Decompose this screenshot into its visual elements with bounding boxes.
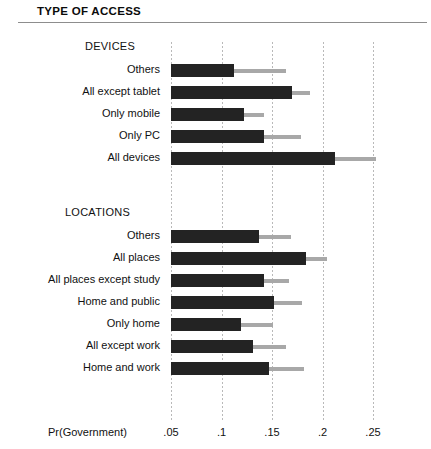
- value-bar: [171, 274, 264, 287]
- bar-row-label: All except work: [86, 339, 160, 351]
- x-tick-label: .05: [163, 426, 178, 438]
- value-bar: [171, 230, 259, 243]
- value-bar: [171, 64, 234, 77]
- value-bar: [171, 108, 244, 121]
- bar-row: All places except study: [0, 270, 431, 292]
- value-bar: [171, 152, 335, 165]
- bar-row-label: Others: [127, 63, 160, 75]
- bar-row: Others: [0, 226, 431, 248]
- value-bar: [171, 130, 264, 143]
- value-bar: [171, 340, 253, 353]
- x-tick-label: .1: [217, 426, 226, 438]
- bar-row-label: Only mobile: [102, 107, 160, 119]
- bar-row-label: All places: [113, 251, 160, 263]
- x-axis-title: Pr(Government): [48, 426, 127, 438]
- bar-row-label: All devices: [107, 151, 160, 163]
- x-tick-label: .25: [365, 426, 380, 438]
- bar-row: Only home: [0, 314, 431, 336]
- bar-row-label: All places except study: [48, 273, 160, 285]
- plot-area: DEVICES LOCATIONS OthersAll except table…: [0, 26, 431, 449]
- value-bar: [171, 86, 292, 99]
- bar-row: Only mobile: [0, 104, 431, 126]
- section-heading-devices: DEVICES: [85, 40, 135, 52]
- bar-row: Others: [0, 60, 431, 82]
- bar-row: All places: [0, 248, 431, 270]
- x-tick-label: .15: [264, 426, 279, 438]
- section-heading-locations: LOCATIONS: [65, 206, 130, 218]
- title-divider: [18, 22, 427, 23]
- bar-row-label: Home and work: [83, 361, 160, 373]
- bar-row-label: Home and public: [77, 295, 160, 307]
- value-bar: [171, 296, 274, 309]
- bar-row: Home and public: [0, 292, 431, 314]
- bar-row-label: All except tablet: [82, 85, 160, 97]
- bar-row-label: Only home: [107, 317, 160, 329]
- chart-root: TYPE OF ACCESS DEVICES LOCATIONS OthersA…: [0, 0, 431, 449]
- value-bar: [171, 362, 269, 375]
- bar-row: All devices: [0, 148, 431, 170]
- bar-row: All except work: [0, 336, 431, 358]
- value-bar: [171, 318, 241, 331]
- bar-row-label: Others: [127, 229, 160, 241]
- page-title: TYPE OF ACCESS: [37, 5, 141, 17]
- value-bar: [171, 252, 306, 265]
- bar-row: Home and work: [0, 358, 431, 380]
- bar-row: Only PC: [0, 126, 431, 148]
- bar-row: All except tablet: [0, 82, 431, 104]
- bar-row-label: Only PC: [119, 129, 160, 141]
- x-tick-label: .2: [318, 426, 327, 438]
